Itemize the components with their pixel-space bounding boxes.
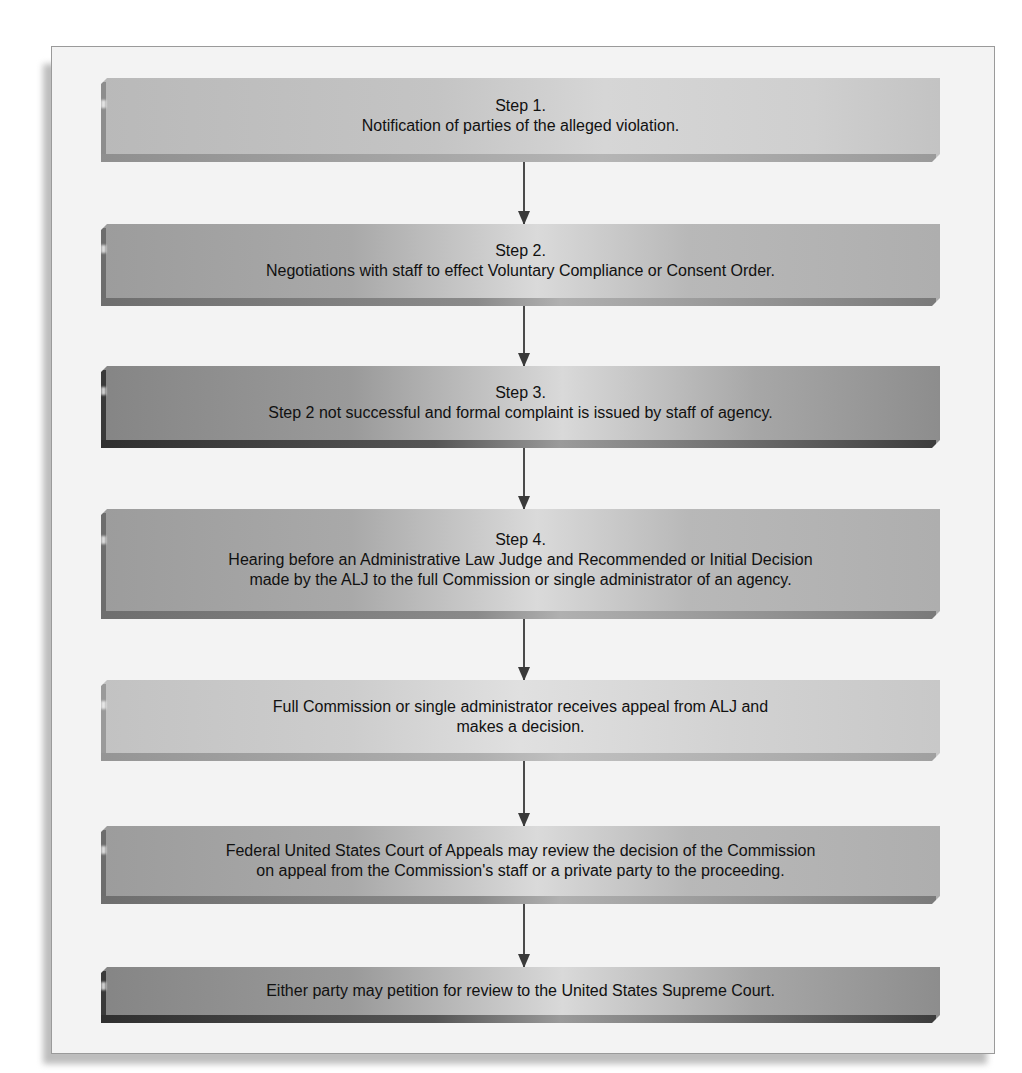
arrow-down-icon [523, 448, 525, 509]
step-2-box: Step 2. Negotiations with staff to effec… [101, 224, 940, 306]
step-6-text-line-1: Federal United States Court of Appeals m… [101, 841, 940, 861]
step-7-text: Either party may petition for review to … [101, 981, 940, 1001]
step-7-box: Either party may petition for review to … [101, 967, 940, 1023]
step-1-text: Notification of parties of the alleged v… [101, 116, 940, 136]
step-6-text-line-2: on appeal from the Commission's staff or… [101, 861, 940, 881]
step-1-title: Step 1. [101, 96, 940, 116]
arrow-down-icon [523, 619, 525, 680]
step-4-text-line-1: Hearing before an Administrative Law Jud… [101, 550, 940, 570]
step-4-text-line-2: made by the ALJ to the full Commission o… [101, 570, 940, 590]
step-3-box: Step 3. Step 2 not successful and formal… [101, 366, 940, 448]
arrow-down-icon [523, 162, 525, 224]
step-2-title: Step 2. [101, 241, 940, 261]
arrow-down-icon [523, 761, 525, 826]
step-1-box: Step 1. Notification of parties of the a… [101, 78, 940, 162]
step-5-text-line-1: Full Commission or single administrator … [101, 697, 940, 717]
step-3-text: Step 2 not successful and formal complai… [101, 403, 940, 423]
step-5-text-line-2: makes a decision. [101, 717, 940, 737]
step-4-title: Step 4. [101, 530, 940, 550]
step-3-title: Step 3. [101, 383, 940, 403]
step-2-text: Negotiations with staff to effect Volunt… [101, 261, 940, 281]
step-4-box: Step 4. Hearing before an Administrative… [101, 509, 940, 619]
step-6-box: Federal United States Court of Appeals m… [101, 826, 940, 904]
arrow-down-icon [523, 306, 525, 366]
step-5-box: Full Commission or single administrator … [101, 680, 940, 761]
arrow-down-icon [523, 904, 525, 967]
